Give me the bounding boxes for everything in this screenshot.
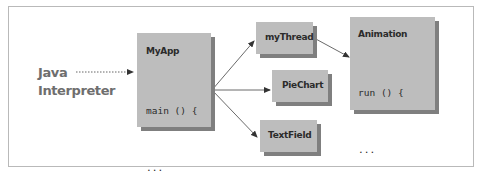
box-myapp-code: main () { ... } [146,63,197,174]
code-line: ... [146,158,197,174]
box-animation-title: Animation [358,29,407,39]
box-mythread-title: myThread [265,32,313,42]
arrow-myapp-to-textfield [212,90,257,137]
box-animation: Animation run () { ... } [350,17,435,110]
arrow-myapp-to-mythread [212,41,254,90]
box-myapp-title: MyApp [146,46,179,56]
box-textfield: TextField [260,120,317,152]
box-textfield-title: TextField [268,130,311,140]
box-myapp: MyApp main () { ... } [137,33,211,127]
code-line: main () { [146,101,197,120]
arrow-mythread-to-animation [314,38,349,57]
box-piechart: PieChart [272,70,328,102]
code-line: run () { [358,83,404,102]
box-mythread: myThread [256,22,313,54]
box-piechart-title: PieChart [282,80,323,90]
box-animation-code: run () { ... } [358,45,404,174]
code-line: ... [358,140,404,159]
